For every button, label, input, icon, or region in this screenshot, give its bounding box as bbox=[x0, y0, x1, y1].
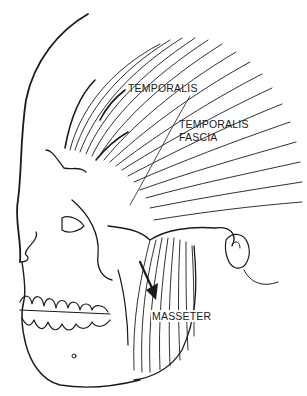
label-masseter: MASSETER bbox=[151, 310, 212, 322]
label-temporalis: TEMPORALIS bbox=[128, 82, 198, 94]
masseter-fibers bbox=[134, 238, 194, 372]
masseter-anterior-edge bbox=[118, 270, 128, 345]
teeth bbox=[20, 296, 110, 330]
zygomatic-arch bbox=[108, 226, 234, 246]
label-temporalis-fascia-line2: FASCIA bbox=[179, 131, 218, 143]
orbit-rim bbox=[46, 150, 86, 172]
skull-muscle-drawing bbox=[0, 0, 307, 396]
label-temporalis-fascia-line1: TEMPORALIS bbox=[179, 118, 249, 130]
cranium-outline bbox=[17, 14, 88, 262]
anatomy-illustration: TEMPORALIS TEMPORALIS FASCIA MASSETER bbox=[0, 0, 307, 396]
zygomatic-bone bbox=[72, 200, 112, 280]
jaw-outline bbox=[22, 262, 140, 387]
